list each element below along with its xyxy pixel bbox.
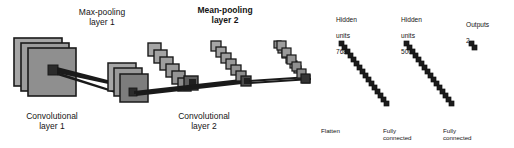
meanpool-layer-2-cascade <box>211 41 251 86</box>
hidden-768-line-3: 768 <box>336 48 376 56</box>
conv-layer-2-stack <box>108 63 148 102</box>
outputs-line-2: 2 <box>466 37 510 45</box>
label-fully-connected-1: Fully connected <box>383 127 435 142</box>
conv-layer-1-stack <box>14 38 76 96</box>
hidden-500-line-2: units <box>401 32 441 40</box>
label-hidden-units-768: Hidden units 768 <box>336 8 376 63</box>
label-fully-connected-2: Fully connected <box>443 127 495 142</box>
label-meanpooling-layer-2: Mean-pooling layer 2 <box>182 6 268 26</box>
label-hidden-units-500: Hidden units 500 <box>401 8 441 63</box>
hidden-500-line-1: Hidden <box>401 16 441 24</box>
hidden-768-line-1: Hidden <box>336 16 376 24</box>
gray-cascade-right <box>292 41 300 49</box>
label-flatten: Flatten <box>321 127 365 134</box>
maxpool-layer-1-cascade <box>148 43 198 91</box>
label-convolutional-layer-2: Convolutional layer 2 <box>160 112 248 132</box>
label-outputs: Outputs 2 <box>466 13 510 53</box>
hidden-500-line-3: 500 <box>401 48 441 56</box>
conv1-receptive-patch <box>48 65 58 75</box>
label-convolutional-layer-1: Convolutional layer 1 <box>8 112 96 132</box>
label-maxpooling-layer-1: Max-pooling layer 1 <box>62 8 142 28</box>
outputs-line-1: Outputs <box>466 21 510 29</box>
hidden-768-line-2: units <box>336 32 376 40</box>
cnn-architecture-diagram: Max-pooling layer 1 Mean-pooling layer 2… <box>0 0 514 148</box>
